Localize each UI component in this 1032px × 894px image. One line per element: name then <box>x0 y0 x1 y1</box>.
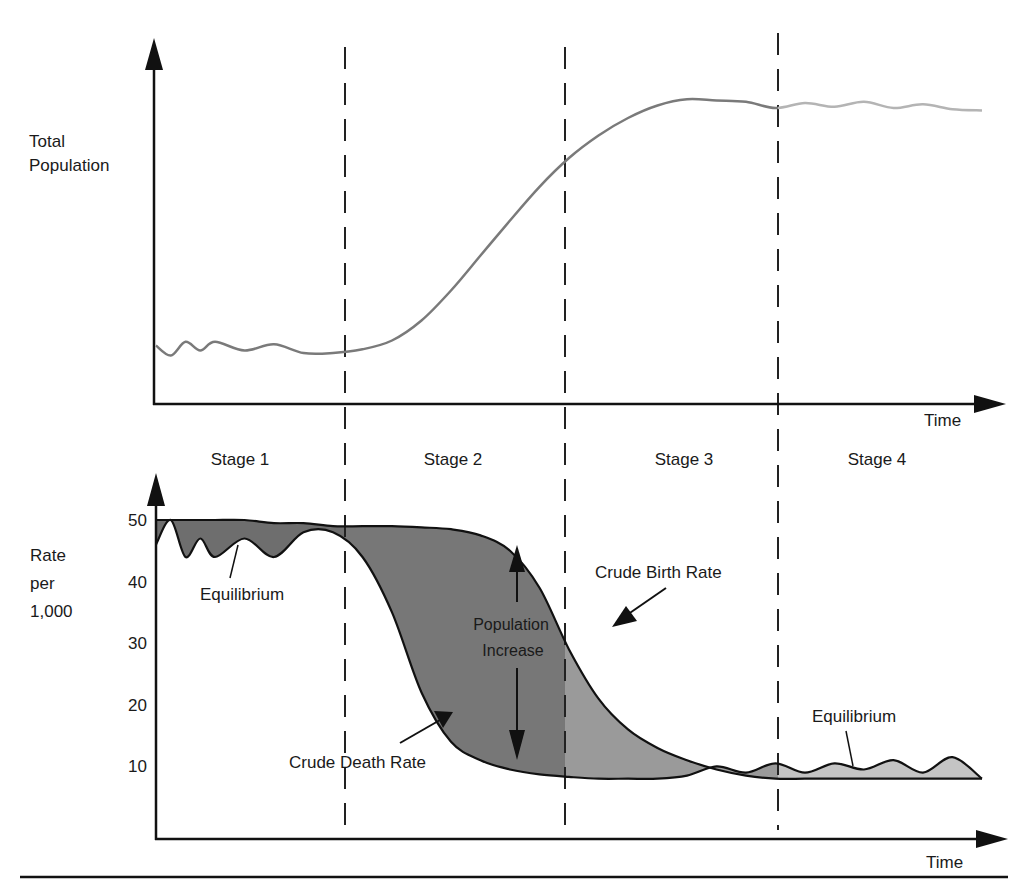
equilibrium-label-2: Equilibrium <box>812 707 896 726</box>
bottom-y-label-line1: Rate <box>30 546 66 565</box>
annotation-equilibrium-stage4: Equilibrium <box>812 707 896 766</box>
y-tick-10: 10 <box>128 757 147 776</box>
crude-birth-rate-label: Crude Birth Rate <box>595 563 722 582</box>
equilibrium-pointer-line-2 <box>846 731 853 766</box>
population-line-stages-1-3 <box>156 99 982 355</box>
y-tick-labels: 1020304050 <box>128 511 147 776</box>
annotation-crude-death-rate: Crude Death Rate <box>289 711 453 772</box>
bottom-x-axis-arrow-icon <box>976 830 1008 848</box>
equilibrium-pointer-line <box>230 545 238 578</box>
top-y-axis-arrow-icon <box>145 38 163 70</box>
bottom-y-axis-arrow-icon <box>147 473 165 506</box>
top-y-label-line1: Total <box>29 132 65 151</box>
demographic-transition-figure: 1020304050 Total Population Time Rate pe… <box>0 0 1032 894</box>
chart-canvas: 1020304050 Total Population Time Rate pe… <box>0 0 1032 894</box>
stage-label-1: Stage 1 <box>211 450 270 469</box>
crude-death-rate-label: Crude Death Rate <box>289 753 426 772</box>
y-tick-40: 40 <box>128 573 147 592</box>
top-x-label: Time <box>924 411 961 430</box>
annotation-crude-birth-rate: Crude Birth Rate <box>595 563 722 627</box>
population-increase-label-line1: Population <box>473 616 549 633</box>
crude-death-rate-arrow-shaft <box>400 720 440 743</box>
crude-birth-rate-arrow-icon <box>612 606 637 627</box>
bottom-y-label-line3: 1,000 <box>30 602 73 621</box>
top-chart-axes <box>145 38 1006 413</box>
population-increase-label-line2: Increase <box>482 642 543 659</box>
bottom-x-label: Time <box>926 853 963 872</box>
bottom-y-label-line2: per <box>30 574 55 593</box>
stage-label-2: Stage 2 <box>424 450 483 469</box>
y-tick-20: 20 <box>128 696 147 715</box>
top-x-axis-arrow-icon <box>974 395 1006 413</box>
top-y-label-line2: Population <box>29 156 109 175</box>
stage-label-4: Stage 4 <box>848 450 907 469</box>
population-curve <box>156 99 982 355</box>
y-tick-30: 30 <box>128 634 147 653</box>
population-line-stage-4 <box>156 99 982 355</box>
equilibrium-label-1: Equilibrium <box>200 585 284 604</box>
y-tick-50: 50 <box>128 511 147 530</box>
stage-label-3: Stage 3 <box>655 450 714 469</box>
